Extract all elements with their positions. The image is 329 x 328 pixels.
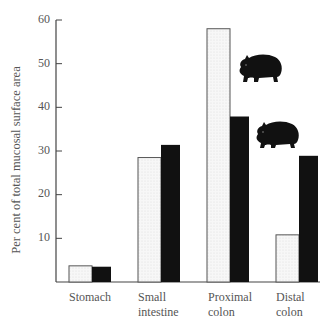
y-tick-label-50: 50 [22, 56, 50, 71]
bar-small-intestine-series-2 [161, 145, 180, 282]
bar-stomach-series-2 [92, 267, 111, 282]
y-tick-label-40: 40 [22, 99, 50, 114]
y-tick-label-20: 20 [22, 186, 50, 201]
chart-canvas [0, 0, 329, 328]
wombat-icon-upper [240, 54, 282, 82]
bar-proximal-colon-series-1 [207, 29, 230, 282]
category-label-stomach: Stomach [69, 290, 111, 305]
bar-distal-colon-series-2 [299, 156, 318, 282]
y-axis-title: Per cent of total mucosal surface area [9, 66, 24, 253]
y-tick-label-60: 60 [22, 12, 50, 27]
category-label-proximal-colon: Proximal colon [208, 290, 252, 320]
category-label-distal-colon: Distal colon [276, 290, 305, 320]
wombat-icon-lower [257, 121, 299, 148]
bar-proximal-colon-series-2 [230, 117, 249, 282]
bar-distal-colon-series-1 [276, 235, 299, 282]
bar-small-intestine-series-1 [138, 158, 161, 282]
y-tick-label-30: 30 [22, 143, 50, 158]
category-label-small-intestine: Small intestine [138, 290, 179, 320]
bar-chart: Per cent of total mucosal surface area 6… [0, 0, 329, 328]
y-tick-label-10: 10 [22, 230, 50, 245]
bar-stomach-series-1 [69, 266, 92, 282]
y-ticks [56, 20, 62, 238]
